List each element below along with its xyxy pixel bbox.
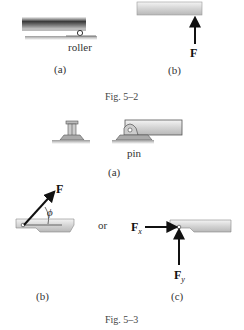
panel-a-label-5-3: (a) <box>108 166 120 178</box>
pin-resultant-diagram <box>16 192 74 232</box>
fy-label: Fy <box>174 268 185 284</box>
fx-label-subscript: x <box>138 227 142 236</box>
panel-b-label-5-3: (b) <box>36 290 49 302</box>
panel-b-label: (b) <box>168 64 181 76</box>
figure-caption-5-3: Fig. 5–3 <box>105 314 138 325</box>
figure-canvas <box>0 0 244 330</box>
roller-icon <box>77 30 82 35</box>
angle-label-phi: ϕ <box>47 206 53 218</box>
pin-support-diagram <box>52 120 182 144</box>
force-label-f: F <box>190 46 197 61</box>
roller-label: roller <box>68 41 92 53</box>
roller-reaction-diagram <box>137 2 202 44</box>
fy-label-subscript: y <box>181 275 185 284</box>
or-connector-text: or <box>98 219 107 231</box>
ground-surface <box>25 36 97 40</box>
figure-caption-5-2: Fig. 5–2 <box>105 91 138 102</box>
force-label-f-resultant: F <box>56 182 63 197</box>
panel-c-label-5-3: (c) <box>171 290 183 302</box>
pin-components-diagram <box>145 220 231 265</box>
panel-a-label: (a) <box>54 63 66 75</box>
fx-label: Fx <box>131 220 142 236</box>
pin-label: pin <box>127 147 141 159</box>
roller-support-diagram <box>22 17 97 40</box>
